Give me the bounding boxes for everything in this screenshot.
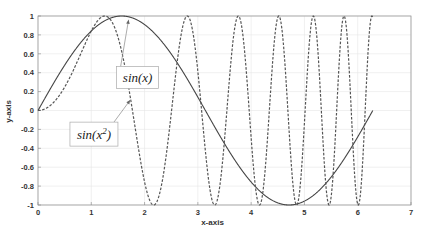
y-tick-label: -0.4 — [21, 144, 35, 153]
x-axis-ticks: 01234567 — [36, 202, 413, 217]
y-tick-label: -0.6 — [21, 163, 34, 172]
annotation-arrowhead-sin-x2 — [126, 100, 130, 104]
annotation-label-sin-x2: sin(x2) — [77, 126, 111, 142]
x-tick-label: 4 — [249, 208, 254, 217]
annotation-label-close: ) — [106, 127, 111, 142]
y-tick-label: -1 — [27, 201, 34, 210]
x-tick-label: 0 — [36, 208, 40, 217]
x-axis-label: x-axis — [201, 218, 224, 227]
x-tick-label: 2 — [142, 208, 146, 217]
y-tick-label: -0.8 — [21, 182, 34, 191]
annotation-arrowhead-sin-x — [126, 20, 130, 24]
x-tick-label: 3 — [196, 208, 200, 217]
annotation-arrow-sin-x2 — [114, 100, 130, 122]
annotation-arrow-sin-x — [121, 20, 129, 67]
y-tick-label: 0.4 — [24, 68, 35, 77]
annotation-label-base: sin(x — [77, 127, 103, 142]
x-tick-label: 6 — [356, 208, 360, 217]
x-tick-label: 5 — [302, 208, 306, 217]
annotation-label-sin-x: sin(x) — [123, 70, 153, 85]
x-tick-label: 7 — [409, 208, 413, 217]
y-tick-label: 0 — [30, 106, 34, 115]
y-tick-label: 0.2 — [24, 87, 34, 96]
y-tick-label: 0.6 — [24, 50, 34, 59]
y-tick-label: 1 — [30, 12, 34, 21]
x-tick-label: 1 — [89, 208, 93, 217]
line-chart: 10.80.60.40.20-0.2-0.4-0.6-0.8-1 0123456… — [0, 0, 427, 237]
y-tick-label: 0.8 — [24, 31, 34, 40]
y-tick-label: -0.2 — [21, 125, 34, 134]
y-axis-label: y-axis — [4, 100, 13, 123]
